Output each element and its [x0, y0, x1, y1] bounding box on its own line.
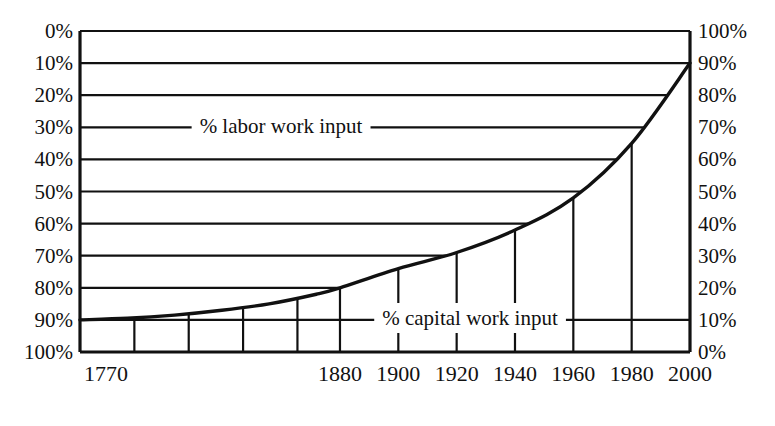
left-axis-tick-label: 90% — [35, 308, 74, 332]
x-axis-tick-label: 1880 — [318, 361, 362, 386]
chart-container: 0%10%20%30%40%50%60%70%80%90%100% 100%90… — [0, 0, 775, 426]
x-axis-tick-label: 1920 — [435, 361, 479, 386]
left-axis-tick-label: 30% — [35, 115, 74, 139]
x-axis-tick-label: 1770 — [84, 361, 128, 386]
work-input-share-chart: 0%10%20%30%40%50%60%70%80%90%100% 100%90… — [0, 0, 775, 426]
right-axis-tick-label: 30% — [698, 244, 737, 268]
x-axis-tick-label: 1900 — [376, 361, 420, 386]
left-axis-tick-label: 20% — [35, 83, 74, 107]
left-axis-tick-label: 70% — [35, 244, 74, 268]
labor-series-label: % labor work input — [200, 114, 363, 138]
left-axis-tick-label: 50% — [35, 180, 74, 204]
x-axis-tick-label: 1980 — [610, 361, 654, 386]
left-axis-tick-label: 80% — [35, 276, 74, 300]
right-axis-tick-label: 40% — [698, 212, 737, 236]
right-axis-tick-label: 100% — [698, 19, 747, 43]
right-axis-tick-label: 60% — [698, 147, 737, 171]
right-axis-tick-label: 20% — [698, 276, 737, 300]
right-axis-tick-label: 90% — [698, 51, 737, 75]
left-axis-tick-label: 0% — [45, 19, 73, 43]
x-axis-tick-label: 1940 — [493, 361, 537, 386]
left-axis-tick-label: 100% — [24, 340, 73, 364]
right-axis-tick-label: 70% — [698, 115, 737, 139]
left-axis-tick-label: 60% — [35, 212, 74, 236]
right-axis-tick-label: 50% — [698, 180, 737, 204]
right-axis-tick-label: 80% — [698, 83, 737, 107]
right-axis-tick-label: 10% — [698, 308, 737, 332]
x-axis-tick-label: 2000 — [668, 361, 712, 386]
left-axis-tick-label: 10% — [35, 51, 74, 75]
x-axis-tick-label: 1960 — [551, 361, 595, 386]
capital-series-label: % capital work input — [382, 306, 558, 330]
left-axis-tick-label: 40% — [35, 147, 74, 171]
